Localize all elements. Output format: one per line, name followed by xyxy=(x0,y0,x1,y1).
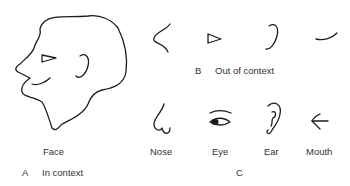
panel-c-letter: C xyxy=(236,167,243,178)
nose-symbol xyxy=(154,104,170,133)
isolated-nose xyxy=(154,24,170,52)
face-ear xyxy=(76,55,89,78)
ear-symbol xyxy=(267,103,280,133)
panel-b-letter: B xyxy=(195,65,201,76)
panel-b-caption: Out of context xyxy=(215,65,274,76)
isolated-ear xyxy=(266,25,278,49)
isolated-mouth xyxy=(316,33,337,40)
eye-symbol xyxy=(210,111,231,125)
face-drawing xyxy=(16,16,127,130)
panel-a-caption: In context xyxy=(42,167,83,178)
isolated-eye xyxy=(208,34,221,43)
ear-label: Ear xyxy=(264,146,279,157)
face-mouth xyxy=(32,78,50,85)
mouth-symbol xyxy=(312,114,328,129)
face-eye xyxy=(42,55,56,62)
eye-label: Eye xyxy=(212,146,228,157)
face-outline xyxy=(16,16,127,130)
mouth-label: Mouth xyxy=(306,146,332,157)
symbol-features xyxy=(154,103,328,133)
panel-a-letter: A xyxy=(22,167,28,178)
nose-label: Nose xyxy=(150,146,172,157)
out-of-context-features xyxy=(154,24,337,52)
face-label: Face xyxy=(43,146,64,157)
